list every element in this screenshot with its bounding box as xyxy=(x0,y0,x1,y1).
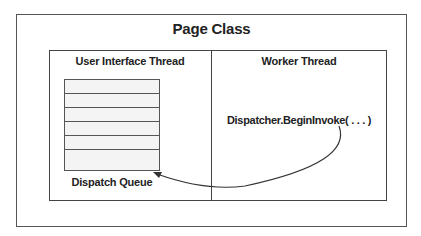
dispatch-arrow-icon xyxy=(0,0,421,236)
